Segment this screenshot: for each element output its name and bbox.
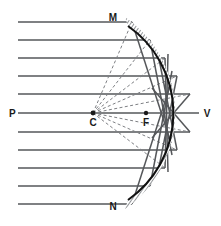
incident-rays-group (18, 22, 199, 204)
focal-point-dot (144, 111, 148, 115)
point-labels-group: P M N C F V (9, 12, 211, 212)
label-M: M (109, 12, 117, 23)
normal-lines-group (93, 22, 190, 168)
normal-line-1 (93, 22, 132, 113)
label-F: F (143, 117, 149, 128)
spherical-mirror-diagram: P M N C F V (0, 0, 221, 226)
figure-root: P M N C F V (0, 0, 221, 226)
label-C: C (89, 117, 96, 128)
label-V: V (204, 108, 211, 119)
label-P: P (9, 108, 16, 119)
center-of-curvature-dot (91, 111, 96, 116)
label-N: N (109, 201, 116, 212)
